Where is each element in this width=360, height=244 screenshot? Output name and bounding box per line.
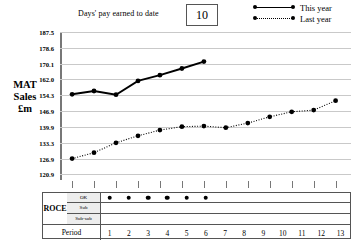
- legend-label-last-year: Last year: [296, 14, 331, 24]
- data-point: [180, 66, 185, 71]
- y-axis-tick-label: 126.9: [39, 155, 54, 162]
- y-axis-tick-label: 154.3: [39, 92, 54, 99]
- data-point: [202, 59, 207, 64]
- legend-item-this-year: This year: [252, 2, 332, 13]
- data-point: [70, 92, 75, 97]
- roce-dot: [165, 195, 170, 200]
- period-number: 6: [204, 228, 208, 237]
- y-axis-tick-label: 120.9: [39, 171, 54, 178]
- data-point: [92, 89, 97, 94]
- y-axis-tick-label: 133.3: [39, 139, 54, 146]
- legend-item-last-year: Last year: [252, 13, 332, 24]
- data-point: [70, 156, 75, 161]
- data-point: [245, 121, 250, 126]
- roce-row-label: OK: [67, 193, 100, 203]
- x-axis-tick: [226, 181, 227, 188]
- period-number: 11: [298, 228, 305, 237]
- roce-row[interactable]: [100, 203, 350, 213]
- data-point: [92, 150, 97, 155]
- data-point: [333, 98, 338, 103]
- series-line-this-year: [72, 62, 204, 95]
- data-point: [114, 92, 119, 97]
- x-axis-tick: [336, 181, 337, 188]
- roce-row[interactable]: [100, 193, 350, 203]
- data-point: [267, 114, 272, 119]
- data-point: [158, 128, 163, 133]
- legend-label-this-year: This year: [296, 3, 332, 13]
- data-point: [158, 73, 163, 78]
- legend-swatch-dotted-icon: [252, 13, 296, 24]
- roce-dot: [146, 195, 151, 200]
- roce-row-label: Sub-sub: [67, 214, 100, 224]
- roce-dot: [107, 195, 112, 200]
- data-point: [202, 124, 207, 129]
- period-number: 12: [317, 228, 325, 237]
- x-axis-tick: [248, 181, 249, 188]
- x-axis-tick: [160, 181, 161, 188]
- x-axis-tick: [292, 181, 293, 188]
- roce-dot-grid: [100, 193, 350, 224]
- period-number: 10: [279, 228, 287, 237]
- y-axis-tick-label: 187.5: [39, 29, 54, 36]
- x-axis-tick: [72, 181, 73, 188]
- period-number: 3: [146, 228, 150, 237]
- period-number: 5: [185, 228, 189, 237]
- data-point: [136, 79, 141, 84]
- days-pay-value-box[interactable]: 10: [186, 4, 218, 26]
- roce-row[interactable]: [100, 214, 350, 224]
- period-number: 2: [127, 228, 131, 237]
- series-line-last-year: [72, 101, 336, 159]
- period-number: 4: [165, 228, 169, 237]
- roce-dot: [203, 195, 208, 200]
- x-axis-tick: [138, 181, 139, 188]
- x-axis-tick: [94, 181, 95, 188]
- roce-title: ROCE: [43, 193, 68, 224]
- x-axis-tick: [116, 181, 117, 188]
- x-axis-tick: [270, 181, 271, 188]
- chart-legend: This year Last year: [252, 2, 332, 24]
- series-layer: [60, 32, 351, 180]
- plot-area: [60, 32, 351, 180]
- period-row: Period 12345678910111213: [43, 224, 350, 240]
- roce-table: ROCE OKSubSub-sub Period 123456789101112…: [42, 192, 351, 239]
- period-number: 7: [223, 228, 227, 237]
- data-point: [223, 125, 228, 130]
- y-axis-tick-label: 162.0: [39, 76, 54, 83]
- period-numbers: 12345678910111213: [100, 225, 350, 240]
- roce-dot: [184, 195, 189, 200]
- roce-dot: [127, 195, 132, 200]
- roce-row-label: Sub: [67, 203, 100, 213]
- y-axis-tick-label: 178.6: [39, 44, 54, 51]
- chart-screen: Days' pay earned to date 10 This year La…: [0, 0, 360, 244]
- period-number: 9: [262, 228, 266, 237]
- y-axis-tick-label: 139.9: [39, 123, 54, 130]
- y-axis-tick-label: 170.1: [39, 60, 54, 67]
- days-pay-label: Days' pay earned to date: [78, 9, 159, 18]
- y-axis-tick-label: 146.9: [39, 108, 54, 115]
- data-point: [311, 108, 316, 113]
- period-number: 8: [242, 228, 246, 237]
- legend-swatch-solid-icon: [252, 2, 296, 13]
- period-label: Period: [43, 225, 101, 240]
- data-point: [289, 109, 294, 114]
- data-point: [114, 140, 119, 145]
- data-point: [180, 124, 185, 129]
- x-axis-tick: [182, 181, 183, 188]
- period-number: 13: [337, 228, 345, 237]
- x-axis-tick: [314, 181, 315, 188]
- x-axis-tick: [204, 181, 205, 188]
- roce-row-labels: OKSubSub-sub: [67, 193, 101, 224]
- data-point: [136, 133, 141, 138]
- period-number: 1: [108, 228, 112, 237]
